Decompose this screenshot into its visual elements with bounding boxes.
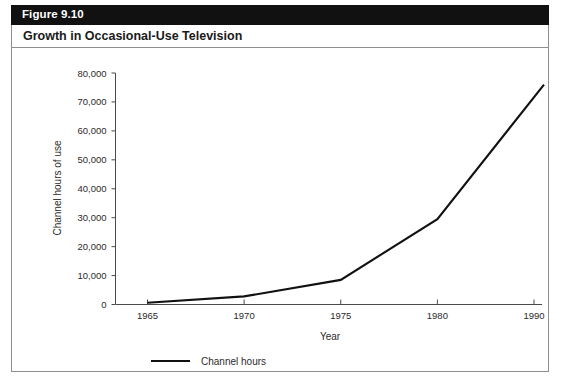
chart-legend: Channel hours (151, 356, 266, 367)
series-line-channel-hours (148, 85, 545, 303)
y-tick-label: 50,000 (77, 154, 106, 165)
x-axis-title: Year (320, 331, 341, 342)
figure-title-row: Growth in Occasional-Use Television (11, 25, 549, 48)
y-tick-label: 40,000 (77, 183, 106, 194)
legend-label-channel-hours: Channel hours (201, 356, 266, 367)
y-tick-label: 30,000 (77, 212, 106, 223)
figure-title: Growth in Occasional-Use Television (23, 29, 242, 43)
y-tick-label: 80,000 (77, 68, 106, 79)
x-tick-label: 1970 (234, 310, 255, 321)
y-tick-label: 0 (101, 299, 106, 310)
y-axis-ticks: 010,00020,00030,00040,00050,00060,00070,… (77, 68, 115, 311)
x-tick-label: 1990 (523, 310, 544, 321)
x-tick-label: 1980 (427, 310, 448, 321)
chart-panel: 010,00020,00030,00040,00050,00060,00070,… (11, 48, 549, 372)
y-tick-label: 60,000 (77, 125, 106, 136)
y-axis-title: Channel hours of use (52, 140, 63, 236)
x-tick-label: 1965 (137, 310, 158, 321)
x-tick-label: 1975 (330, 310, 351, 321)
x-axis-ticks: 19651970197519801990 (137, 300, 545, 321)
figure-number-label: Figure 9.10 (22, 8, 84, 20)
figure-number-bar: Figure 9.10 (11, 5, 549, 25)
y-tick-label: 10,000 (77, 270, 106, 281)
figure-card: Figure 9.10 Growth in Occasional-Use Tel… (11, 5, 549, 372)
y-tick-label: 20,000 (77, 241, 106, 252)
y-tick-label: 70,000 (77, 96, 106, 107)
line-chart-plot: 010,00020,00030,00040,00050,00060,00070,… (12, 48, 548, 370)
